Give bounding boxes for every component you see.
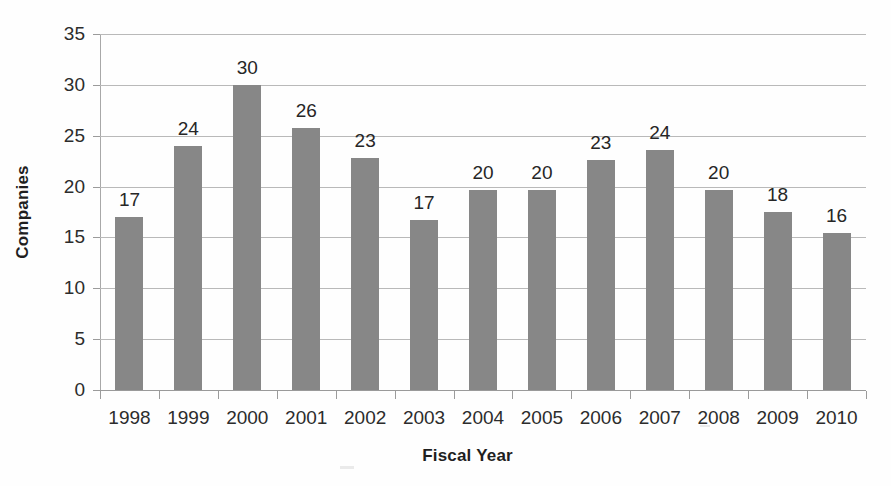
- bar-2008: [705, 190, 733, 390]
- bar-value-label-2004: 20: [453, 163, 513, 182]
- y-tick-label-25: 25: [45, 126, 85, 145]
- bar-value-label-2003: 17: [394, 193, 454, 212]
- y-tick-label-20: 20: [45, 177, 85, 196]
- x-tick-mark-2005: [571, 391, 572, 399]
- x-axis-title: Fiscal Year: [0, 446, 891, 466]
- x-axis-label-2003: 2003: [392, 408, 456, 427]
- gridline-0: [100, 390, 866, 391]
- bar-2004: [469, 190, 497, 390]
- x-axis-label-2010: 2010: [805, 408, 869, 427]
- bar-value-label-2009: 18: [748, 185, 808, 204]
- x-tick-mark-2008: [748, 391, 749, 399]
- bar-value-label-2008: 20: [689, 163, 749, 182]
- bar-value-label-1998: 17: [99, 190, 159, 209]
- y-tick-label-10: 10: [45, 278, 85, 297]
- plot-area: [100, 34, 866, 390]
- x-axis-label-2006: 2006: [569, 408, 633, 427]
- bar-1999: [174, 146, 202, 390]
- bar-2001: [292, 128, 320, 390]
- bar-2010: [823, 233, 851, 390]
- y-axis-title-text: Companies: [13, 165, 33, 258]
- x-tick-mark-1999: [218, 391, 219, 399]
- y-tick-mark-10: [93, 288, 100, 289]
- bar-2002: [351, 158, 379, 390]
- x-tick-mark-2009: [807, 391, 808, 399]
- y-tick-mark-5: [93, 339, 100, 340]
- x-axis-label-2002: 2002: [333, 408, 397, 427]
- y-tick-mark-25: [93, 136, 100, 137]
- x-tick-mark-2001: [336, 391, 337, 399]
- x-tick-mark-2002: [395, 391, 396, 399]
- y-axis-title: Companies: [6, 0, 40, 424]
- bar-2005: [528, 190, 556, 390]
- x-tick-mark-2006: [630, 391, 631, 399]
- y-tick-label-35: 35: [45, 24, 85, 43]
- y-tick-mark-15: [93, 237, 100, 238]
- y-tick-mark-0: [93, 390, 100, 391]
- bar-2007: [646, 150, 674, 390]
- bar-2003: [410, 220, 438, 390]
- bar-2000: [233, 85, 261, 390]
- x-tick-mark-origin: [100, 391, 101, 399]
- bar-2006: [587, 160, 615, 390]
- x-axis-label-1998: 1998: [97, 408, 161, 427]
- y-tick-label-0: 0: [45, 380, 85, 399]
- x-tick-mark-2007: [689, 391, 690, 399]
- y-tick-mark-20: [93, 187, 100, 188]
- x-axis-label-2001: 2001: [274, 408, 338, 427]
- bar-2009: [764, 212, 792, 390]
- bar-value-label-2000: 30: [217, 58, 277, 77]
- x-tick-mark-2003: [454, 391, 455, 399]
- x-axis-label-1999: 1999: [156, 408, 220, 427]
- bar-1998: [115, 217, 143, 390]
- gridline-30: [100, 85, 866, 86]
- bar-value-label-2005: 20: [512, 163, 572, 182]
- bar-value-label-2002: 23: [335, 131, 395, 150]
- bar-value-label-1999: 24: [158, 119, 218, 138]
- y-tick-mark-30: [93, 85, 100, 86]
- x-axis-label-2005: 2005: [510, 408, 574, 427]
- x-axis-label-2007: 2007: [628, 408, 692, 427]
- scan-artifact: [340, 466, 354, 469]
- x-tick-mark-1998: [159, 391, 160, 399]
- x-axis-label-2009: 2009: [746, 408, 810, 427]
- y-tick-label-15: 15: [45, 227, 85, 246]
- bar-value-label-2006: 23: [571, 133, 631, 152]
- bar-chart-figure: Companies 05101520253035 172430262317202…: [0, 0, 891, 486]
- y-tick-label-30: 30: [45, 75, 85, 94]
- bar-value-label-2007: 24: [630, 123, 690, 142]
- x-tick-mark-2004: [512, 391, 513, 399]
- gridline-35: [100, 34, 866, 35]
- x-tick-mark-2010: [866, 391, 867, 399]
- x-axis-title-text: Fiscal Year: [422, 446, 513, 466]
- x-axis-label-2008: 2008: [687, 408, 751, 427]
- x-axis-label-2004: 2004: [451, 408, 515, 427]
- y-tick-label-5: 5: [45, 329, 85, 348]
- y-tick-mark-35: [93, 34, 100, 35]
- x-axis-label-2000: 2000: [215, 408, 279, 427]
- bar-value-label-2001: 26: [276, 101, 336, 120]
- x-tick-mark-2000: [277, 391, 278, 399]
- bar-value-label-2010: 16: [807, 206, 867, 225]
